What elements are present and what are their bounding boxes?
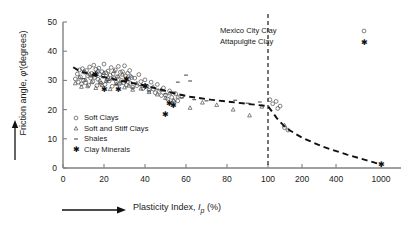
friction-angle-plasticity-chart: ✱✱✱✱✱✱✱✱✱ 0204060801002004001000 0102030… bbox=[0, 0, 409, 236]
legend-right: Mexico City Clay✱Attapulgite Clay bbox=[0, 0, 409, 236]
legend-label-mexico-city-clay: Mexico City Clay bbox=[220, 26, 277, 35]
svg-text:✱: ✱ bbox=[361, 38, 368, 47]
legend-label-attapulgite-clay: Attapulgite Clay bbox=[220, 37, 273, 46]
